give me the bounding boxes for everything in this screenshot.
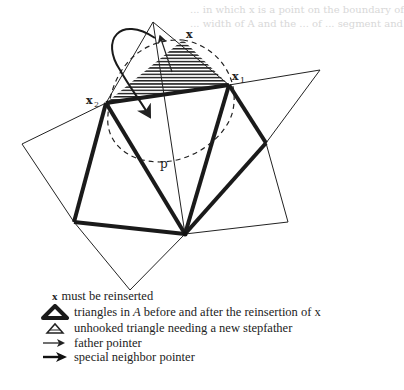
triangulation-diagram: x x 1 x 2 p [0, 0, 400, 290]
legend-item-special-neighbor-pointer: special neighbor pointer [40, 349, 195, 365]
thick-triangles [74, 85, 266, 234]
hatched-triangle-icon [40, 320, 74, 336]
legend-label: unhooked triangle needing a new stepfath… [74, 321, 292, 336]
label-x1-sub: 1 [240, 76, 245, 85]
label-x2: x [86, 94, 93, 107]
legend-item-hatched-triangle: unhooked triangle needing a new stepfath… [40, 320, 292, 336]
special-neighbor-arrow-icon [40, 349, 74, 365]
x-marker: x [52, 290, 58, 302]
label-p: p [160, 157, 168, 171]
label-x1: x [232, 70, 239, 83]
label-x2-sub: 2 [94, 100, 99, 109]
thick-triangle-icon [40, 304, 74, 320]
legend-label: special neighbor pointer [74, 350, 195, 365]
label-x: x [186, 28, 193, 41]
legend-item-must-reinsert: x must be reinserted [52, 288, 153, 304]
legend-label: must be reinserted [62, 289, 154, 304]
legend-item-thick-triangles: triangles in A before and after the rein… [40, 304, 321, 320]
legend-label: triangles in A before and after the rein… [74, 305, 321, 320]
